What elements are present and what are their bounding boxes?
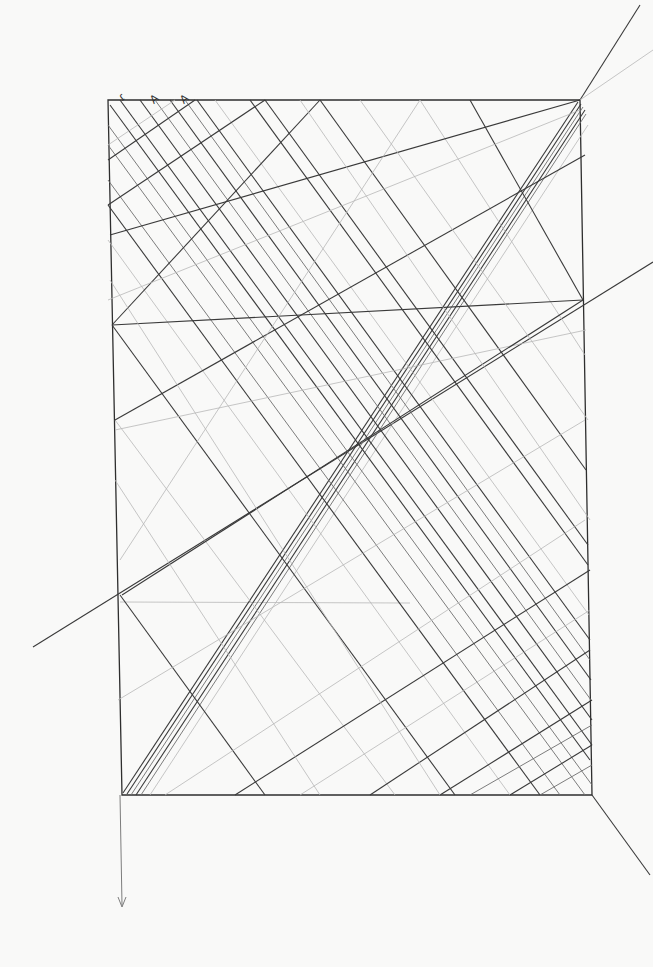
- diagonal-extension-bottom: [592, 795, 650, 875]
- paper-sheet: ɾ A A: [0, 0, 653, 967]
- geometric-drawing: ɾ A A: [0, 0, 653, 967]
- corner-label-2: A: [147, 91, 161, 106]
- diagonal-extension-top: [580, 5, 640, 100]
- corner-label-1: ɾ: [116, 90, 129, 104]
- vertical-arrow-line: [120, 795, 122, 905]
